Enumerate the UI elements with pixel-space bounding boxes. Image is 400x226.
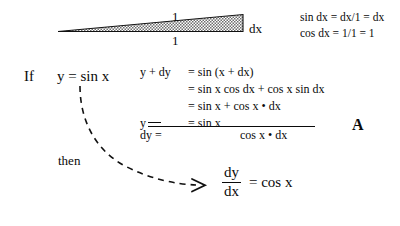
derivation-rhs: = sin x cos dx + cos x sin dx [188, 80, 325, 99]
premise-keyword-if: If [24, 68, 34, 85]
fraction-numerator: dy [222, 165, 241, 181]
conclusion-keyword-then: then [58, 153, 80, 169]
diagram-canvas: 1 1 dx sin dx = dx/1 = dx cos dx = 1/1 =… [0, 0, 400, 226]
derivation-rhs: = sin x + cos x • dx [188, 97, 281, 116]
triangle-hypotenuse-label: 1 [172, 10, 179, 23]
derivation-rhs: = sin (x + dx) [188, 63, 254, 82]
conclusion-rhs: = cos x [249, 174, 292, 191]
triangle-base-label: 1 [172, 34, 179, 47]
identity-sin-dx: sin dx = dx/1 = dx [300, 9, 384, 25]
triangle-body [58, 15, 243, 32]
right-triangle-dx [0, 0, 290, 56]
identity-cos-dx: cos dx = 1/1 = 1 [300, 25, 384, 41]
derivation-rhs: = sin x [188, 114, 221, 133]
triangle-opposite-label: dx [249, 22, 262, 35]
result-lhs: dy = [140, 128, 188, 143]
derivation-lhs: y + dy [140, 63, 188, 82]
conclusion-equation: dy dx = cos x [222, 165, 292, 200]
arrowhead-icon [192, 179, 205, 192]
panel-label-a: A [352, 116, 364, 134]
result-rhs: cos x • dx [240, 128, 287, 143]
fraction-denominator: dx [222, 184, 241, 200]
premise-equation: y = sin x [57, 68, 109, 85]
trig-identities: sin dx = dx/1 = dx cos dx = 1/1 = 1 [300, 9, 384, 42]
subtrahend-underline [148, 122, 161, 123]
triangle-figure: 1 1 dx [0, 0, 290, 56]
derivative-fraction: dy dx [222, 165, 241, 200]
